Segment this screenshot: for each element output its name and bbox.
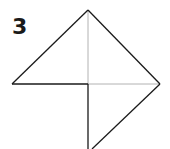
right-upper-edge [88,10,160,84]
right-lower-edge [92,84,160,149]
left-upper-edge [12,10,88,84]
origami-diagram [0,0,170,149]
